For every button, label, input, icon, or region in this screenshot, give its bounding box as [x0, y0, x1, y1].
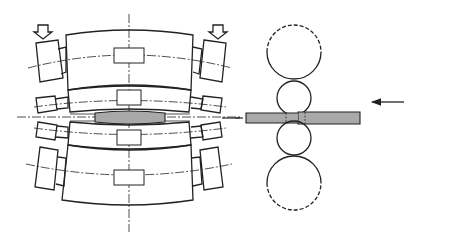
lower-backup-chock-left	[35, 147, 58, 190]
front-view	[17, 14, 240, 232]
upper-backup-chock-right	[200, 40, 226, 82]
lower-work-label-box	[117, 130, 141, 145]
upper-work-label-box	[117, 90, 141, 105]
side-strip-entry	[298, 112, 360, 124]
strip	[95, 111, 165, 124]
side-upper-backup-roll	[267, 52, 321, 79]
side-view	[222, 25, 404, 210]
rolling-mill-diagram	[0, 0, 474, 247]
lower-backup-label-box	[114, 170, 144, 185]
lower-backup-chock-right	[200, 147, 223, 190]
side-lower-work-roll	[277, 121, 311, 155]
rolling-load-arrow-left-icon	[34, 25, 52, 39]
upper-backup-label-box	[114, 48, 144, 63]
side-upper-work-roll	[277, 81, 311, 115]
side-lower-backup-roll	[267, 156, 321, 183]
lower-work-chock-left	[36, 122, 57, 140]
rolling-load-arrow-right-icon	[209, 25, 227, 39]
